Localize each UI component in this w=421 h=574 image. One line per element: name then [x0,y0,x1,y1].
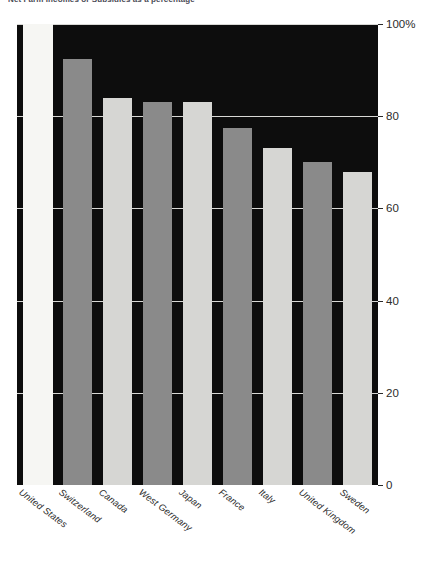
chart-figure: Net Farm Incomes or Subsidies as a perce… [0,0,421,574]
bar-slot [257,24,297,485]
bar [23,24,52,485]
bar-slot [217,24,257,485]
y-axis-tick-label: 100% [386,18,415,30]
y-axis-tick [378,485,383,486]
bar [343,172,372,485]
bar-slot [98,24,138,485]
bar [63,59,92,485]
y-axis-tick-label: 0 [386,479,392,491]
bar-slot [178,24,218,485]
y-axis-tick-label: 20 [386,387,399,399]
bar-slot [18,24,58,485]
bar [263,148,292,485]
y-axis: 100%806040200 [378,24,421,485]
y-axis-tick-label: 40 [386,295,399,307]
bar-slot [138,24,178,485]
y-axis-tick-label: 80 [386,110,399,122]
bar [223,128,252,485]
figure-title-cropped: Net Farm Incomes or Subsidies as a perce… [8,0,308,6]
y-axis-tick [378,24,383,25]
y-axis-tick [378,393,383,394]
x-axis-tick-label: Sweden [337,487,371,516]
x-axis-tick-label: France [217,487,247,513]
y-axis-tick-label: 60 [386,202,399,214]
bar [143,102,172,485]
x-axis-tick-label: Canada [97,487,130,515]
bar-group [17,24,378,485]
x-axis-tick-label: Italy [257,487,277,506]
bar-slot [58,24,98,485]
bar [303,162,332,485]
plot-area [17,24,378,485]
x-axis-tick-label: Japan [177,487,204,511]
y-axis-tick [378,301,383,302]
bar-slot [337,24,377,485]
bar [103,98,132,485]
y-axis-tick [378,116,383,117]
x-axis-labels: United StatesSwitzerlandCanadaWest Germa… [17,487,378,573]
bar-slot [297,24,337,485]
y-axis-tick [378,208,383,209]
bar [183,102,212,485]
